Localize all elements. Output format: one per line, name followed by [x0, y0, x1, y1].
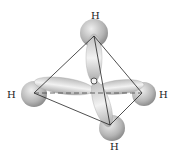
sp3-orbital-lobes [33, 34, 144, 129]
tetrahedral-orbital-diagram: H H H H [0, 0, 178, 161]
carbon-nucleus [91, 78, 97, 84]
label-h-top: H [91, 10, 100, 21]
label-h-right: H [159, 89, 168, 100]
label-h-bottom: H [110, 141, 119, 152]
diagram-svg: H H H H [0, 0, 178, 161]
label-h-left: H [7, 89, 16, 100]
